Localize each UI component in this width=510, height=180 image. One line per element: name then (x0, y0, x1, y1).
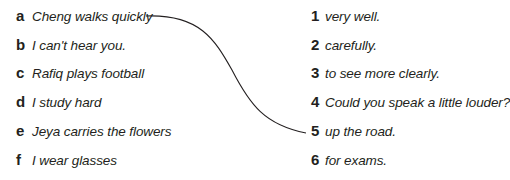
item-number: 1 (311, 6, 325, 26)
item-number: 6 (311, 150, 325, 170)
item-text: I wear glasses (32, 153, 117, 168)
item-number: 5 (311, 121, 325, 141)
right-item-1: 1very well. (311, 6, 380, 26)
right-item-2: 2carefully. (311, 35, 377, 55)
item-text: Could you speak a little louder? (325, 95, 510, 110)
item-text: to see more clearly. (325, 66, 440, 81)
right-item-3: 3to see more clearly. (311, 63, 440, 83)
item-text: Cheng walks quickly (32, 9, 152, 24)
item-label: c (16, 63, 32, 83)
left-item-c: cRafiq plays football (16, 63, 144, 83)
item-text: Rafiq plays football (32, 66, 144, 81)
item-text: I study hard (32, 95, 101, 110)
left-item-a: aCheng walks quickly (16, 6, 152, 26)
item-label: e (16, 121, 32, 141)
left-item-b: bI can't hear you. (16, 35, 126, 55)
item-label: d (16, 92, 32, 112)
item-text: very well. (325, 9, 380, 24)
item-label: b (16, 35, 32, 55)
item-label: a (16, 6, 32, 26)
item-number: 3 (311, 63, 325, 83)
right-item-6: 6for exams. (311, 150, 387, 170)
item-text: up the road. (325, 124, 396, 139)
item-number: 4 (311, 92, 325, 112)
item-number: 2 (311, 35, 325, 55)
item-text: carefully. (325, 38, 377, 53)
left-item-e: eJeya carries the flowers (16, 121, 171, 141)
right-item-4: 4Could you speak a little louder? (311, 92, 510, 112)
item-text: I can't hear you. (32, 38, 126, 53)
item-label: f (16, 150, 32, 170)
left-item-d: dI study hard (16, 92, 101, 112)
right-item-5: 5up the road. (311, 121, 396, 141)
item-text: for exams. (325, 153, 387, 168)
left-item-f: fI wear glasses (16, 150, 117, 170)
item-text: Jeya carries the flowers (32, 124, 171, 139)
